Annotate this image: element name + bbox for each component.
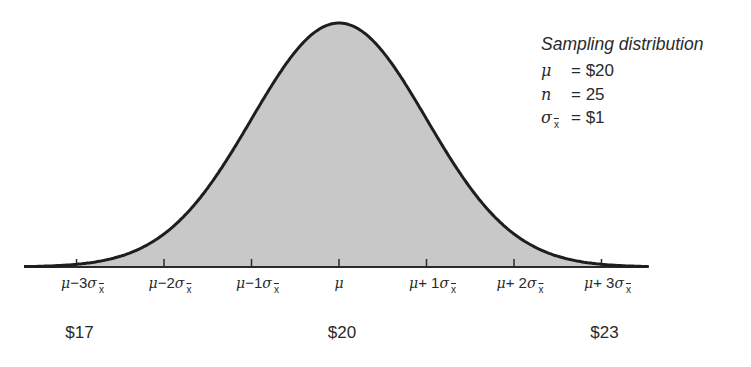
- tick-label: μ+ 2σx: [497, 274, 544, 291]
- legend-symbol: μ: [541, 61, 571, 80]
- tick-label: μ−2σx: [149, 274, 192, 291]
- tick-label: μ+ 3σx: [584, 274, 631, 291]
- dollar-label: $17: [65, 323, 93, 343]
- legend-value: = $1: [571, 108, 605, 128]
- tick-label: μ−3σx: [61, 274, 104, 291]
- legend-title: Sampling distribution: [541, 34, 703, 55]
- legend-value: = 25: [571, 85, 605, 105]
- tick-label: μ: [334, 274, 343, 291]
- legend-row-mu: μ = $20: [541, 61, 703, 85]
- dollar-label: $20: [328, 323, 356, 343]
- legend: Sampling distribution μ = $20 n = 25 σx …: [541, 34, 703, 132]
- legend-symbol: n: [541, 85, 571, 104]
- legend-row-n: n = 25: [541, 85, 703, 109]
- legend-value: = $20: [571, 61, 614, 81]
- tick-label: μ+ 1σx: [409, 274, 456, 291]
- legend-row-sigma: σx = $1: [541, 108, 703, 132]
- legend-symbol: σx: [541, 108, 571, 127]
- dollar-label: $23: [590, 323, 618, 343]
- tick-label: μ−1σx: [236, 274, 279, 291]
